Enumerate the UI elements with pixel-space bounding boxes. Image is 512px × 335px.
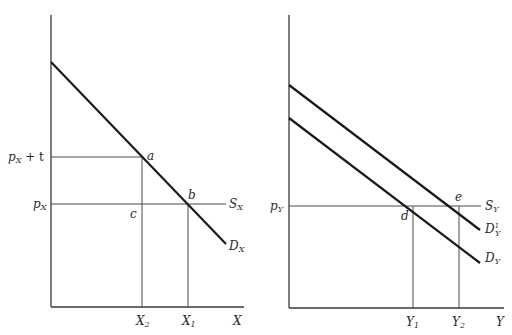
point-a-label: a [147, 149, 154, 163]
y1-label: Y1 [406, 315, 419, 330]
demand-y-shifted-curve [289, 85, 480, 230]
supply-y-label: SY [485, 199, 499, 214]
point-d-label: d [401, 209, 409, 223]
x2-label: X2 [135, 314, 150, 329]
x1-label: X1 [181, 314, 196, 329]
point-c-label: c [130, 207, 137, 221]
price-y-label: pY [270, 199, 284, 214]
tax-price-label: pX + t [8, 150, 44, 165]
point-e-label: e [455, 190, 462, 204]
supply-x-label: SX [229, 197, 243, 212]
demand-x-label: DX [228, 239, 245, 254]
demand-y-label: DY [484, 251, 501, 266]
demand-y-shifted-label: D1Y [484, 222, 501, 238]
y-axis-label: Y [496, 315, 505, 329]
demand-y-curve [289, 118, 480, 263]
demand-x-curve [51, 62, 226, 244]
y2-label: Y2 [452, 315, 465, 330]
diagram-canvas: pX + t pX a b c SX DX X2 X1 X pY d e SY [0, 0, 512, 335]
price-x-label: pX [33, 197, 47, 212]
point-b-label: b [188, 188, 196, 202]
left-panel: pX + t pX a b c SX DX X2 X1 X [8, 15, 245, 329]
x-axis-label: X [232, 314, 242, 328]
right-panel: pY d e SY D1Y DY Y1 Y2 Y [270, 15, 505, 330]
